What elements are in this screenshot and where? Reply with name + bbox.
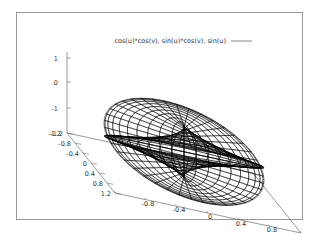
z-tick-label: -1.2 [48,130,61,138]
x-tick-label: 0.8 [267,226,277,233]
x-tick-label: -0.4 [173,206,186,214]
y-tick-label: -0.8 [58,140,71,148]
y-tick-label: 0.4 [85,170,95,178]
wireframe-surface [104,98,264,205]
y-tick-label: 0 [83,160,87,168]
x-tick-label: -0.8 [142,200,155,208]
z-tick-label: -1 [52,105,58,113]
legend: cos(u)*cos(v), sin(u)*cos(v), sin(u) [114,37,252,45]
x-tick-label: 0 [208,213,212,221]
tick-labels: -0.8-0.400.40.81.2-1.2-0.8-0.400.40.81.2… [48,55,308,234]
surface-plot: cos(u)*cos(v), sin(u)*cos(v), sin(u) -0.… [0,0,319,233]
y-tick-label: 0.8 [93,180,103,188]
legend-label: cos(u)*cos(v), sin(u)*cos(v), sin(u) [114,37,226,45]
x-tick-label: 0.4 [236,220,246,228]
y-tick-label: -0.4 [66,150,79,158]
z-tick-label: 0 [54,79,58,87]
y-tick-label: 1.2 [101,190,111,198]
z-tick-label: 1 [54,55,58,63]
